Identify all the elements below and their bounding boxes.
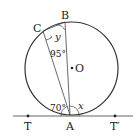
label-o: O xyxy=(75,62,84,75)
label-angle-70: 70° xyxy=(50,103,66,113)
point-t xyxy=(27,115,30,118)
point-t-prime xyxy=(114,115,117,118)
point-o xyxy=(71,67,74,70)
angle-arrow-95 xyxy=(50,36,52,39)
label-c: C xyxy=(33,22,41,35)
label-t-prime: T′ xyxy=(110,120,120,133)
label-a: A xyxy=(65,120,75,133)
label-t: T xyxy=(24,120,32,133)
angle-arc-95 xyxy=(46,37,52,40)
label-angle-95: 95° xyxy=(50,49,66,59)
label-angle-x: x xyxy=(78,100,84,111)
geometry-diagram: B C O A T T′ 70° 95° x y xyxy=(0,0,138,137)
angle-arc-y xyxy=(58,25,65,30)
label-b: B xyxy=(61,9,69,22)
label-angle-y: y xyxy=(54,31,61,42)
